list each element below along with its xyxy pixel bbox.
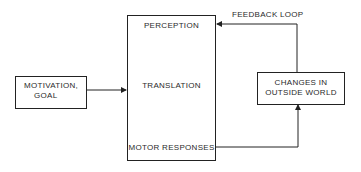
motivation-label: MOTIVATION, (24, 81, 78, 91)
goal-label: GOAL (34, 91, 57, 101)
changes-in-label: CHANGES IN (257, 78, 345, 88)
feedback-loop-label: FEEDBACK LOOP (232, 10, 303, 20)
perception-label: PERCEPTION (127, 21, 216, 31)
arrow-feedback-loop (217, 24, 297, 72)
motor-responses-label: MOTOR RESPONSES (127, 143, 216, 153)
arrow-motor-to-outside-world (216, 105, 298, 147)
outside-world-label: OUTSIDE WORLD (257, 88, 345, 98)
translation-label: TRANSLATION (127, 81, 216, 91)
